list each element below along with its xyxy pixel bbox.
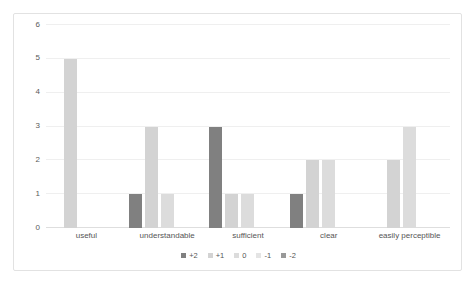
bar-slot (387, 25, 400, 228)
bar-group (127, 25, 208, 228)
legend-item-plus1[interactable]: +1 (208, 252, 225, 260)
bar[interactable] (387, 160, 400, 228)
legend-label-minus1: -1 (264, 252, 271, 260)
bar[interactable] (145, 127, 158, 229)
legend-item-minus2[interactable]: -2 (281, 252, 296, 260)
bar-slot (419, 25, 432, 228)
bar-group (208, 25, 289, 228)
legend-swatch-plus2 (181, 253, 186, 258)
y-axis-tick-2: 2 (36, 156, 40, 164)
bar[interactable] (161, 194, 174, 228)
legend-swatch-minus1 (256, 253, 261, 258)
legend-label-minus2: -2 (289, 252, 296, 260)
bar-slot (96, 25, 109, 228)
bar-slot (257, 25, 270, 228)
bar-slot (306, 25, 319, 228)
bar[interactable] (403, 127, 416, 229)
bar-group (46, 25, 127, 228)
x-axis-label-clear: clear (288, 232, 369, 241)
bar-slot (161, 25, 174, 228)
bar-slot (290, 25, 303, 228)
bar-group (288, 25, 369, 228)
x-axis-label-useful: useful (46, 232, 127, 241)
bar-slot (145, 25, 158, 228)
bar-slot (193, 25, 206, 228)
y-axis-tick-1: 1 (36, 190, 40, 198)
bars-layer (46, 25, 450, 228)
legend-item-plus2[interactable]: +2 (181, 252, 198, 260)
plot-area: 0123456 (46, 25, 450, 228)
bar-slot (48, 25, 61, 228)
x-axis-label-sufficient: sufficient (208, 232, 289, 241)
y-axis-tick-6: 6 (36, 21, 40, 29)
legend-label-plus2: +2 (189, 252, 198, 260)
chart-legend: +2 +1 0 -1 -2 (14, 252, 463, 260)
bar-slot (371, 25, 384, 228)
bar-slot (241, 25, 254, 228)
bar-slot (322, 25, 335, 228)
bar-slot (273, 25, 286, 228)
bar-slot (129, 25, 142, 228)
bar[interactable] (129, 194, 142, 228)
bar[interactable] (290, 194, 303, 228)
chart-container: 0123456 useful understandable sufficient… (13, 13, 462, 271)
bar[interactable] (225, 194, 238, 228)
legend-item-minus1[interactable]: -1 (256, 252, 271, 260)
bar-slot (354, 25, 367, 228)
bar-slot (338, 25, 351, 228)
legend-swatch-zero (234, 253, 239, 258)
bar[interactable] (322, 160, 335, 228)
bar-group (369, 25, 450, 228)
bar-slot (177, 25, 190, 228)
y-axis-tick-0: 0 (36, 224, 40, 232)
x-axis-label-easily-perceptible: easily perceptible (369, 232, 450, 241)
legend-label-zero: 0 (242, 252, 246, 260)
bar-slot (64, 25, 77, 228)
y-axis-tick-4: 4 (36, 88, 40, 96)
legend-swatch-minus2 (281, 253, 286, 258)
bar-slot (403, 25, 416, 228)
legend-item-zero[interactable]: 0 (234, 252, 246, 260)
bar[interactable] (241, 194, 254, 228)
bar-slot (112, 25, 125, 228)
y-axis-tick-5: 5 (36, 54, 40, 62)
bar[interactable] (209, 127, 222, 229)
bar-slot (80, 25, 93, 228)
bar[interactable] (306, 160, 319, 228)
x-axis-label-understandable: understandable (127, 232, 208, 241)
legend-label-plus1: +1 (216, 252, 225, 260)
x-axis-labels: useful understandable sufficient clear e… (46, 232, 450, 241)
legend-swatch-plus1 (208, 253, 213, 258)
bar-slot (225, 25, 238, 228)
bar-slot (209, 25, 222, 228)
bar-slot (435, 25, 448, 228)
bar[interactable] (64, 59, 77, 228)
y-axis-tick-3: 3 (36, 122, 40, 130)
